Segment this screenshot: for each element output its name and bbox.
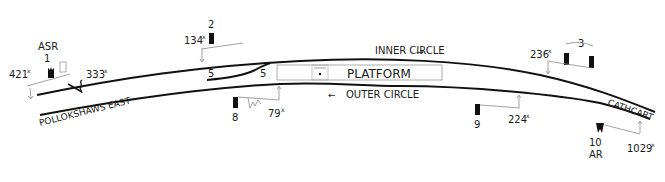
signal-9: 9 224 x <box>474 95 530 130</box>
svg-text:236: 236 <box>530 49 549 60</box>
outer-arrow-icon: ← <box>328 90 336 100</box>
platform-label: PLATFORM <box>347 67 411 81</box>
inner-circle-label: INNER CIRCLE <box>375 45 445 56</box>
platform-marker-dot <box>319 73 321 75</box>
location-east-label: CATHCART <box>606 97 655 122</box>
outer-circle-label: OUTER CIRCLE <box>346 89 419 100</box>
signal-3: 3 236 x <box>530 38 594 74</box>
svg-text:x: x <box>104 67 108 74</box>
svg-text:224: 224 <box>508 114 527 125</box>
svg-text:8: 8 <box>232 112 238 123</box>
points-label-right: 5 <box>260 68 266 79</box>
signal-head-icon <box>564 53 569 65</box>
signal-head-icon <box>209 33 214 44</box>
svg-text:333: 333 <box>86 69 105 80</box>
crossing-333: 333 x <box>68 67 108 93</box>
svg-text:x: x <box>27 67 31 74</box>
platform-marker-box <box>312 65 328 80</box>
signal-head-icon <box>475 104 480 115</box>
svg-text:x: x <box>281 106 285 113</box>
svg-text:9: 9 <box>474 119 480 130</box>
svg-text:79: 79 <box>268 108 281 119</box>
lower-track <box>40 83 650 119</box>
svg-text:421: 421 <box>9 69 28 80</box>
railway-diagram: PLATFORM INNER CIRCLE → ← OUTER CIRCLE P… <box>0 0 665 182</box>
location-west-label: POLLOKSHAWS EAST <box>38 95 132 128</box>
svg-text:x: x <box>202 33 206 40</box>
signal-head-icon <box>596 123 604 133</box>
signal-head-icon <box>48 67 54 78</box>
svg-text:AR: AR <box>589 149 603 160</box>
speed-restriction-icon <box>248 98 261 108</box>
svg-text:1: 1 <box>44 53 50 64</box>
svg-text:2: 2 <box>208 19 214 30</box>
signal-head-icon <box>233 97 238 108</box>
signal-box-icon <box>60 62 66 72</box>
svg-text:ASR: ASR <box>38 41 58 52</box>
svg-text:10: 10 <box>589 137 602 148</box>
signal-10: 10 AR 1029 x <box>589 121 655 160</box>
inner-arrow-icon: → <box>416 47 424 57</box>
svg-text:1029: 1029 <box>627 143 652 154</box>
signal-8: 8 79 x <box>232 86 285 123</box>
svg-text:x: x <box>526 112 530 119</box>
points-label-left: 5 <box>208 68 214 79</box>
svg-text:3: 3 <box>578 38 584 49</box>
signal-head-icon <box>589 56 594 68</box>
svg-text:134: 134 <box>184 35 203 46</box>
svg-text:x: x <box>548 47 552 54</box>
signal-2: 2 134 x <box>184 19 243 62</box>
svg-text:x: x <box>651 141 655 148</box>
